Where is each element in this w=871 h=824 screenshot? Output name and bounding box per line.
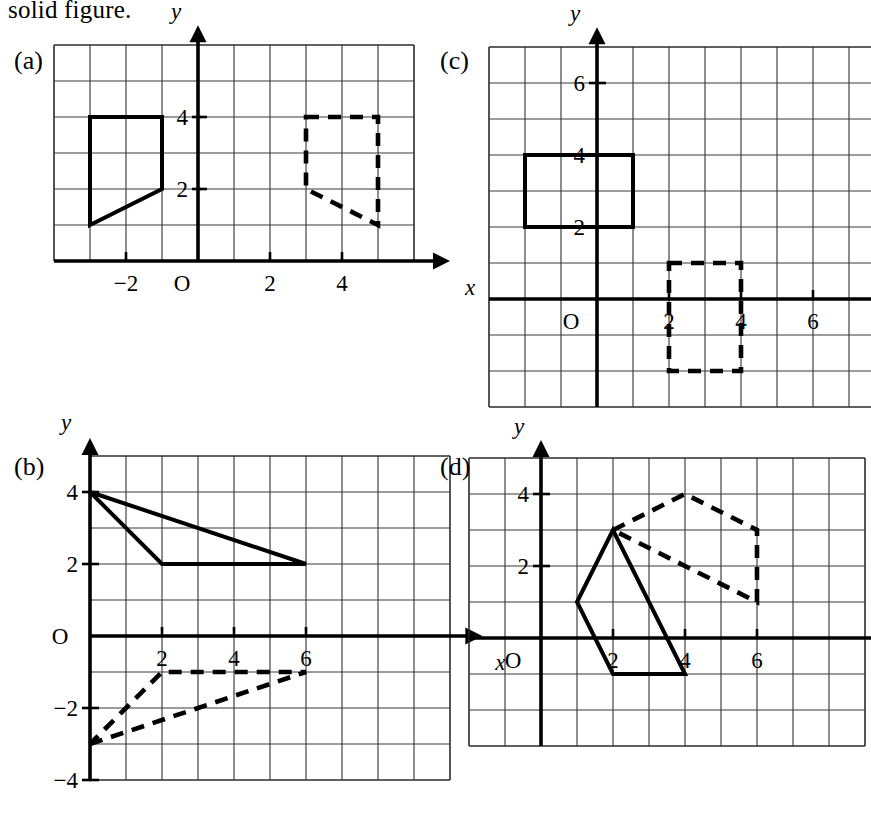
y-tick-label: −4: [54, 768, 79, 793]
y-axis-name: y: [59, 410, 72, 435]
panel-d: (d) 24624Oxy: [440, 448, 860, 820]
panel-a-label: (a): [14, 48, 43, 74]
panel-a: (a) −22424Oxy: [14, 38, 434, 308]
x-tick-label: 2: [156, 646, 168, 671]
y-tick-label: 6: [574, 71, 586, 96]
axes: [489, 27, 871, 407]
origin-label: O: [174, 271, 191, 296]
panel-b-graph: 246−4−224Oxy: [14, 448, 434, 818]
y-tick-label: 2: [518, 554, 530, 579]
y-tick-label: 4: [177, 105, 189, 130]
x-tick-label: 4: [228, 646, 240, 671]
axes: [54, 25, 450, 269]
y-axis-arrowhead: [533, 440, 550, 457]
panel-a-graph: −22424Oxy: [14, 38, 434, 308]
x-tick-label: 4: [336, 271, 348, 296]
x-tick-label: 6: [751, 648, 763, 673]
panel-c: (c) 246246Oxy: [440, 38, 860, 430]
y-tick-label: 2: [67, 552, 79, 577]
y-tick-label: 4: [67, 480, 79, 505]
x-tick-label: −2: [114, 271, 138, 296]
x-tick-label: 6: [807, 309, 819, 334]
panel-c-graph: 246246Oxy: [440, 38, 860, 430]
grid-lines: [54, 45, 414, 261]
y-axis-name: y: [568, 1, 581, 26]
panel-d-label: (d): [440, 454, 470, 480]
panel-c-label: (c): [440, 48, 469, 74]
origin-label: O: [52, 624, 69, 649]
origin-label: O: [505, 648, 522, 673]
tick-labels: 246246Oxy: [563, 1, 871, 338]
panel-b-label: (b): [14, 454, 44, 480]
panel-b: (b) 246−4−224Oxy: [14, 448, 434, 818]
y-axis-arrowhead: [82, 438, 99, 455]
grid-lines: [90, 456, 450, 780]
y-axis-name: y: [169, 0, 182, 24]
panel-d-graph: 24624Oxy: [440, 448, 860, 820]
axes: [469, 440, 871, 746]
y-axis-arrowhead: [589, 27, 606, 44]
page-header-text: solid figure.: [8, 0, 131, 24]
y-axis-name: y: [512, 414, 525, 439]
y-tick-label: 4: [518, 482, 530, 507]
x-tick-label: 6: [300, 646, 312, 671]
y-tick-label: −2: [54, 696, 78, 721]
origin-label: O: [563, 309, 580, 334]
y-tick-label: 2: [177, 177, 189, 202]
x-tick-label: 2: [264, 271, 276, 296]
y-axis-arrowhead: [190, 25, 207, 42]
